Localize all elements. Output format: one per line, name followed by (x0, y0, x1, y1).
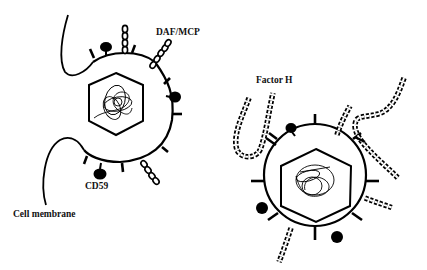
label-cell-membrane: Cell membrane (13, 210, 76, 220)
label-factor-h: Factor H (256, 76, 293, 86)
cell-membrane-bottom (43, 138, 84, 205)
capsid-right (281, 149, 351, 222)
diagram-graphic (0, 0, 427, 270)
diagram-canvas: DAF/MCP CD59 Cell membrane Factor H (0, 0, 427, 270)
capsid-left (89, 73, 143, 135)
virion-left (43, 15, 182, 205)
virion-right (236, 78, 404, 262)
label-cd59: CD59 (85, 182, 108, 192)
label-daf-mcp: DAF/MCP (156, 28, 200, 38)
cell-membrane-top (61, 15, 93, 75)
